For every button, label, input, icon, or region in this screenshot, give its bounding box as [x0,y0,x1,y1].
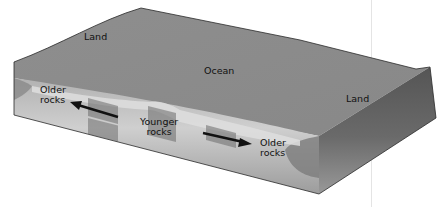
seafloor-diagram [0,0,443,207]
label-older-left-line2: rocks [40,95,66,105]
label-land-left: Land [84,32,107,42]
label-older-rocks-left: Older rocks [40,85,66,105]
label-ocean: Ocean [204,66,234,76]
label-older-rocks-right: Older rocks [260,138,286,158]
label-older-right-line2: rocks [260,148,286,158]
label-younger-rocks: Younger rocks [140,117,178,137]
label-land-right: Land [346,94,369,104]
label-younger-line2: rocks [140,127,178,137]
